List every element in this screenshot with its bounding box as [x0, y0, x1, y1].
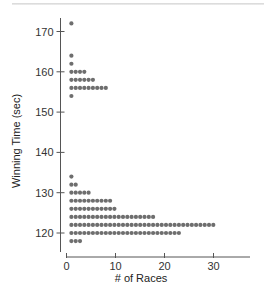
data-point [142, 215, 146, 219]
data-point [82, 223, 86, 227]
data-point [82, 191, 86, 195]
data-point [74, 86, 78, 90]
data-point [134, 215, 138, 219]
data-point [173, 223, 177, 227]
data-point [207, 223, 211, 227]
data-point [112, 207, 116, 211]
data-point [138, 215, 142, 219]
data-point [87, 207, 91, 211]
data-point [108, 223, 112, 227]
data-point [121, 215, 125, 219]
x-axis: 0102030 [63, 253, 250, 272]
data-point [112, 215, 116, 219]
data-point [99, 231, 103, 235]
data-point [91, 223, 95, 227]
x-tick-label: 10 [109, 260, 121, 272]
data-point [211, 223, 215, 227]
data-point [87, 215, 91, 219]
data-point [74, 183, 78, 187]
data-point [95, 199, 99, 203]
data-point [74, 239, 78, 243]
data-point [78, 207, 82, 211]
data-point [168, 223, 172, 227]
y-tick-label: 150 [35, 106, 53, 118]
data-point [138, 223, 142, 227]
data-point [104, 223, 108, 227]
data-point [69, 199, 73, 203]
data-point [95, 207, 99, 211]
data-point [104, 86, 108, 90]
data-point [130, 223, 134, 227]
y-tick-label: 130 [35, 187, 53, 199]
data-point [69, 231, 73, 235]
data-point [203, 223, 207, 227]
data-point [78, 86, 82, 90]
data-point [164, 223, 168, 227]
data-point [69, 174, 73, 178]
data-point [87, 86, 91, 90]
data-point [125, 215, 129, 219]
data-point [95, 231, 99, 235]
data-point [87, 199, 91, 203]
data-point [87, 78, 91, 82]
data-point [82, 86, 86, 90]
data-point [160, 223, 164, 227]
data-point [87, 231, 91, 235]
dot-plot-chart: 120130140150160170 0102030 Winning Time … [0, 0, 264, 290]
data-point [121, 231, 125, 235]
data-point [108, 207, 112, 211]
data-point [69, 183, 73, 187]
data-point [91, 86, 95, 90]
data-point [147, 231, 151, 235]
data-point [125, 223, 129, 227]
data-point [69, 21, 73, 25]
data-point [117, 231, 121, 235]
data-point [125, 231, 129, 235]
data-point [99, 199, 103, 203]
data-point [82, 215, 86, 219]
data-point [74, 207, 78, 211]
data-point [155, 231, 159, 235]
data-point [82, 231, 86, 235]
data-point [164, 231, 168, 235]
data-point [99, 223, 103, 227]
x-axis-title: # of Races [115, 272, 168, 284]
data-point [74, 223, 78, 227]
data-point [168, 231, 172, 235]
data-point [91, 199, 95, 203]
data-point [147, 215, 151, 219]
data-point [91, 215, 95, 219]
y-axis-title: Winning Time (sec) [10, 94, 22, 188]
data-point [82, 70, 86, 74]
data-point [69, 94, 73, 98]
data-point [104, 199, 108, 203]
data-point [121, 223, 125, 227]
data-point [82, 199, 86, 203]
data-point [160, 231, 164, 235]
data-point [108, 215, 112, 219]
data-point [69, 70, 73, 74]
data-point [69, 191, 73, 195]
data-point [177, 231, 181, 235]
data-point [138, 231, 142, 235]
data-point [108, 199, 112, 203]
y-axis: 120130140150160170 [35, 18, 64, 252]
data-point [69, 62, 73, 66]
data-point [185, 223, 189, 227]
data-point [173, 231, 177, 235]
data-point [82, 78, 86, 82]
data-point [151, 231, 155, 235]
data-point [104, 207, 108, 211]
data-point [190, 223, 194, 227]
data-point [104, 231, 108, 235]
y-tick-label: 120 [35, 227, 53, 239]
x-tick-label: 30 [207, 260, 219, 272]
data-point [74, 199, 78, 203]
data-point [78, 223, 82, 227]
data-point [87, 223, 91, 227]
y-tick-label: 140 [35, 146, 53, 158]
data-point [95, 86, 99, 90]
data-point [142, 231, 146, 235]
data-point [155, 223, 159, 227]
data-point [69, 54, 73, 58]
